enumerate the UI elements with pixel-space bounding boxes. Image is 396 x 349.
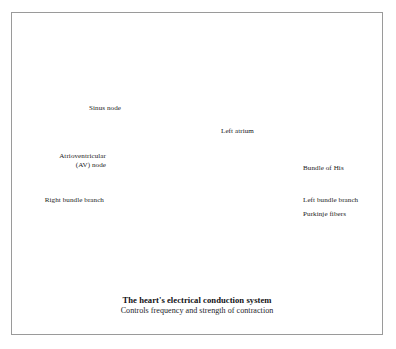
callout-left-bundle-branch-label: Left bundle branch bbox=[303, 196, 358, 204]
inline-label-left-atrium-text: Left atrium bbox=[221, 127, 254, 135]
figure-caption: The heart's electrical conduction system… bbox=[11, 295, 383, 316]
callout-av-node-line2: (AV) node bbox=[10, 161, 106, 170]
callout-av-node-line1: Atrioventricular bbox=[10, 152, 106, 161]
caption-title: The heart's electrical conduction system bbox=[11, 295, 383, 306]
callout-purkinje-fibers: Purkinje fibers bbox=[303, 210, 383, 219]
callout-left-bundle-branch: Left bundle branch bbox=[303, 196, 383, 205]
callout-av-node: Atrioventricular (AV) node bbox=[10, 152, 106, 170]
callout-right-bundle-branch: Right bundle branch bbox=[10, 196, 104, 205]
callout-right-bundle-branch-label: Right bundle branch bbox=[45, 196, 104, 204]
callout-bundle-of-his-label: Bundle of His bbox=[303, 164, 344, 172]
callout-purkinje-fibers-label: Purkinje fibers bbox=[303, 210, 346, 218]
callout-sinus-node-label: Sinus node bbox=[89, 104, 121, 112]
caption-subtitle: Controls frequency and strength of contr… bbox=[11, 306, 383, 317]
figure-root: Sinus node Atrioventricular (AV) node Ri… bbox=[0, 0, 396, 349]
inline-label-left-atrium: Left atrium bbox=[221, 127, 254, 135]
callout-bundle-of-his: Bundle of His bbox=[303, 164, 383, 173]
callout-sinus-node: Sinus node bbox=[20, 104, 121, 113]
